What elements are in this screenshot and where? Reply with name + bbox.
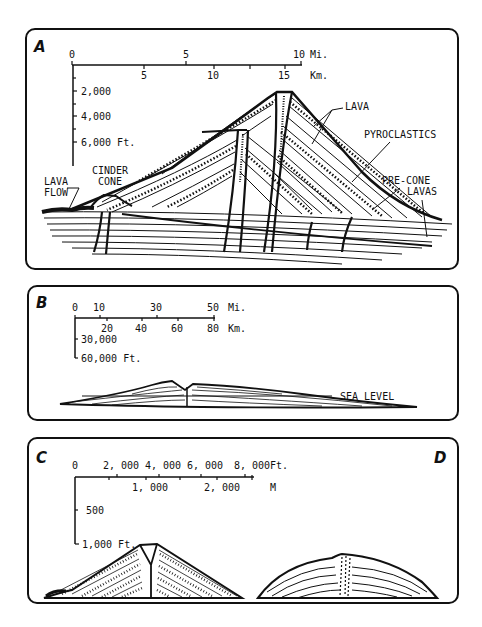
- vert-tick-1000: 1,000 Ft.: [82, 539, 136, 550]
- ft-tick-6000: 6,000 Ft.: [81, 137, 135, 148]
- panel-letter-a: A: [33, 38, 46, 56]
- ft-tick-30000: 30,000: [81, 334, 117, 345]
- panel-b-drawing: B 0 10 30 50 Mi. 20 40 60 80 Km. 30,000 …: [29, 287, 461, 423]
- label-cinder-cone-1: CINDER: [92, 165, 129, 176]
- label-lava-flow-2: FLOW: [44, 187, 69, 198]
- mi-tick-10: 10: [93, 302, 105, 313]
- km-tick-80: 80: [207, 323, 219, 334]
- ft-tick-8000: 8, 000: [234, 460, 270, 471]
- panel-a-composite-volcano: A 0 5 10 Mi. 5 10 15 Km. 2,000 4,000 6,0…: [25, 28, 459, 270]
- label-lava-flow-1: LAVA: [44, 176, 68, 187]
- label-cinder-cone-2: CONE: [98, 176, 122, 187]
- panel-c-d-drawing: C D 0 2, 000 4, 000 6, 000 8, 000 Ft. 1,…: [29, 439, 461, 606]
- mi-tick-0: 0: [72, 302, 78, 313]
- cone-strata-layers: [97, 94, 432, 218]
- ft-tick-0: 0: [72, 460, 78, 471]
- panel-c-d-cinder-cone-and-dome: C D 0 2, 000 4, 000 6, 000 8, 000 Ft. 1,…: [27, 437, 459, 604]
- km-tick-20: 20: [101, 323, 113, 334]
- ft-tick-60000: 60,000 Ft.: [81, 353, 141, 364]
- mi-tick-0: 0: [69, 49, 75, 60]
- mi-tick-5: 5: [183, 49, 189, 60]
- vert-tick-500: 500: [86, 505, 104, 516]
- km-tick-40: 40: [135, 323, 147, 334]
- lava-dome-d: [258, 554, 437, 598]
- mi-tick-30: 30: [150, 302, 162, 313]
- panel-letter-c: C: [36, 449, 47, 467]
- cinder-cone-c: [44, 544, 242, 599]
- panel-b-shield-volcano: B 0 10 30 50 Mi. 20 40 60 80 Km. 30,000 …: [27, 285, 459, 421]
- mi-tick-50: 50: [207, 302, 219, 313]
- mi-unit: Mi.: [228, 302, 246, 313]
- panel-a-drawing: A 0 5 10 Mi. 5 10 15 Km. 2,000 4,000 6,0…: [27, 30, 461, 272]
- mi-unit: Mi.: [310, 49, 328, 60]
- mi-tick-10: 10: [293, 49, 305, 60]
- km-tick-5: 5: [141, 70, 147, 81]
- ft-tick-4000: 4,000: [81, 111, 111, 122]
- ft-tick-4000: 4, 000: [145, 460, 181, 471]
- panel-letter-d: D: [434, 449, 446, 467]
- km-tick-10: 10: [207, 70, 219, 81]
- m-tick-2000: 2, 000: [204, 482, 240, 493]
- label-pre-cone-2: LAVAS: [407, 186, 437, 197]
- km-unit: Km.: [228, 323, 246, 334]
- km-tick-15: 15: [278, 70, 290, 81]
- km-tick-60: 60: [171, 323, 183, 334]
- ft-tick-2000: 2,000: [81, 86, 111, 97]
- panel-letter-b: B: [36, 294, 47, 312]
- label-pyroclastics: PYROCLASTICS: [364, 129, 436, 140]
- km-unit: Km.: [310, 70, 328, 81]
- label-lava: LAVA: [345, 101, 369, 112]
- m-unit: M: [270, 482, 276, 493]
- ft-unit: Ft.: [270, 460, 288, 471]
- ft-tick-2000: 2, 000: [103, 460, 139, 471]
- ft-tick-6000: 6, 000: [187, 460, 223, 471]
- label-pre-cone-1: PRE-CONE: [382, 175, 430, 186]
- label-sea-level: SEA LEVEL: [340, 391, 394, 402]
- pre-cone-lava-layers: [42, 212, 452, 264]
- m-tick-1000: 1, 000: [132, 482, 168, 493]
